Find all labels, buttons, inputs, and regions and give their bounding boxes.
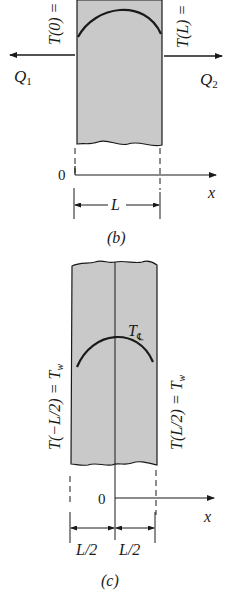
- caption-c: (c): [101, 572, 119, 590]
- origin-label-c: 0: [98, 491, 106, 507]
- half-width-label-right: L/2: [118, 541, 140, 558]
- x-axis-label-b: x: [207, 184, 215, 201]
- caption-b: (b): [107, 229, 126, 247]
- right-temp-label-c: T(L/2) = Tw: [168, 374, 187, 450]
- half-width-label-left: L/2: [75, 541, 97, 558]
- right-temp-label-b: T(L) =: [174, 5, 192, 48]
- x-axis-label-c: x: [203, 508, 211, 525]
- flux-label-q1: Q1: [14, 67, 32, 87]
- slab-c: [71, 261, 157, 465]
- left-temp-label-c: T(−L/2) = Tw: [46, 364, 65, 450]
- origin-label-b: 0: [58, 167, 66, 183]
- heat-conduction-diagram: T(0) = T(L) = Q1 Q2 0 x L (b) T℄ T(−L/2)…: [0, 0, 225, 591]
- left-temp-label-b: T(0) =: [46, 3, 64, 45]
- width-label-b: L: [110, 196, 120, 213]
- figure-c: T℄ T(−L/2) = Tw T(L/2) = Tw 0 x L/2 L/2 …: [46, 261, 214, 590]
- flux-label-q2: Q2: [200, 70, 218, 90]
- figure-b: T(0) = T(L) = Q1 Q2 0 x L (b): [10, 0, 222, 247]
